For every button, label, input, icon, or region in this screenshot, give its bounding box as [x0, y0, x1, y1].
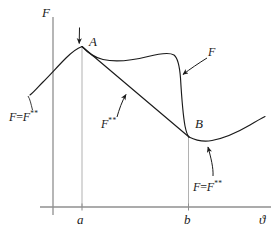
leader-arrow-right-branch [208, 147, 213, 176]
annotation-right-branch: F=F** [193, 180, 222, 193]
x-tick-label-a: a [77, 213, 84, 226]
figure-canvas: F ϑ a b A B F=F** F** F F=F** [0, 0, 280, 239]
curve-left-branch [30, 47, 82, 96]
y-axis-label: F [42, 6, 50, 19]
x-axis-label: ϑ [259, 213, 265, 226]
leader-left-branch [28, 96, 33, 110]
point-label-a: A [89, 35, 97, 48]
annotation-left-branch-sup: ** [30, 109, 38, 118]
annotation-right-branch-sup: ** [214, 179, 222, 188]
curve-convex-envelope [82, 47, 189, 138]
annotation-upper-curve: F [208, 46, 215, 58]
leader-arrow-envelope [117, 95, 126, 118]
leader-arrow-upper-curve [183, 58, 207, 75]
annotation-convex-envelope: F** [101, 117, 117, 130]
annotation-envelope-sup: ** [108, 116, 116, 125]
annotation-left-branch: F=F** [9, 110, 38, 123]
annotation-upper-curve-f: F [208, 45, 215, 59]
diagram-svg [0, 0, 280, 239]
point-label-b: B [195, 117, 203, 130]
x-tick-label-b: b [184, 213, 191, 226]
